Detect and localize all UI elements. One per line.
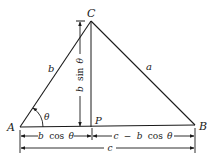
left-base-label: b cos θ (38, 131, 74, 141)
vertex-label-p: P (94, 115, 102, 126)
right-base-label: c − b cos θ (114, 131, 173, 141)
side-a (91, 21, 195, 125)
vertex-label-b: B (198, 120, 207, 133)
angle-arc (33, 108, 43, 127)
triangle-diagram: C A B P b a θ b sin θ b cos θ c − b cos … (0, 0, 216, 163)
side-label-b: b (48, 63, 54, 74)
full-base-label: c (107, 143, 112, 153)
vertex-label-a: A (6, 121, 15, 134)
angle-label: θ (44, 112, 50, 122)
side-label-a: a (146, 61, 152, 72)
vertex-label-c: C (87, 7, 96, 20)
side-c (20, 125, 195, 127)
height-label: b sin θ (75, 57, 85, 92)
